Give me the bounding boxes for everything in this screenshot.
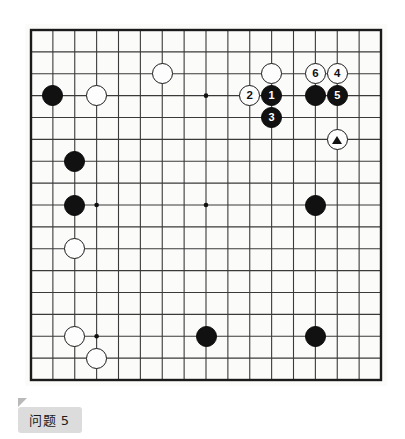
caption-label: 问题 5 xyxy=(18,407,82,433)
go-stone-white[interactable] xyxy=(261,63,282,84)
go-stone-black[interactable] xyxy=(64,151,85,172)
move-number: 6 xyxy=(312,68,318,80)
go-stone-black[interactable] xyxy=(305,195,326,216)
go-stone-black-1[interactable]: 1 xyxy=(261,85,282,106)
move-number: 2 xyxy=(247,90,253,102)
go-stone-black[interactable] xyxy=(196,326,217,347)
go-stone-white-4[interactable]: 4 xyxy=(327,63,348,84)
go-stone-black-3[interactable]: 3 xyxy=(261,107,282,128)
go-stone-white[interactable] xyxy=(64,238,85,259)
go-stone-black[interactable] xyxy=(305,326,326,347)
go-board[interactable]: 213645 xyxy=(25,24,387,395)
triangle-marker-icon xyxy=(332,136,342,144)
page-root: 213645 问题 5 xyxy=(0,0,405,439)
go-stone-white[interactable] xyxy=(152,63,173,84)
go-stone-white[interactable] xyxy=(64,326,85,347)
caption-corner-fold-icon xyxy=(18,398,27,407)
go-stone-white[interactable] xyxy=(86,348,107,369)
move-number: 4 xyxy=(334,68,340,80)
go-stone-white[interactable] xyxy=(86,85,107,106)
move-number: 3 xyxy=(269,112,275,123)
go-stone-white[interactable] xyxy=(327,129,348,150)
caption: 问题 5 xyxy=(18,403,218,431)
go-stone-black[interactable] xyxy=(64,195,85,216)
go-stone-black-5[interactable]: 5 xyxy=(327,85,348,106)
move-number: 1 xyxy=(269,90,275,101)
move-number: 5 xyxy=(334,90,340,101)
go-stone-black[interactable] xyxy=(42,85,63,106)
go-stone-white-6[interactable]: 6 xyxy=(305,63,326,84)
go-stone-white-2[interactable]: 2 xyxy=(239,85,260,106)
stone-layer[interactable]: 213645 xyxy=(25,24,387,395)
go-stone-black[interactable] xyxy=(305,85,326,106)
